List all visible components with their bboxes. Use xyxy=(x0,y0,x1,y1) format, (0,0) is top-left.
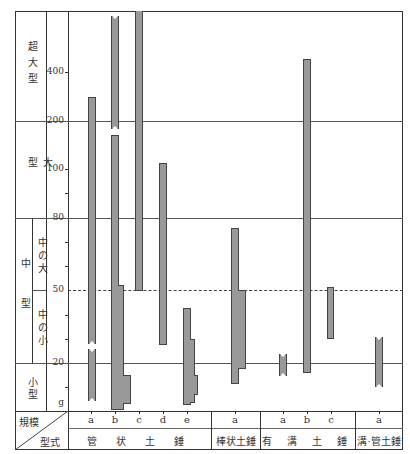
subtype-label: a xyxy=(276,414,290,425)
tick xyxy=(65,242,69,243)
tick-label-20: 20 xyxy=(44,357,64,367)
gridline-200 xyxy=(15,121,403,122)
subtype-label: a xyxy=(228,414,242,425)
chart-frame xyxy=(15,11,403,450)
bar-kanjou-b-step2 xyxy=(123,375,131,404)
gridline-80 xyxy=(15,218,403,219)
x-axis-line xyxy=(15,411,403,412)
y-axis-line xyxy=(68,11,69,450)
subtype-label: e xyxy=(180,414,194,425)
label-super-large: 超大型 xyxy=(24,30,39,100)
bar-kanjou-d xyxy=(159,163,167,345)
gridline-20 xyxy=(15,363,403,364)
bar-kanjou-b-upper xyxy=(111,16,119,129)
tick xyxy=(65,315,69,316)
type-header: 型式 xyxy=(40,434,60,449)
tick xyxy=(65,339,69,340)
bar-yuukou-a xyxy=(279,354,287,376)
group-label-kanjou: 管 状 土 錘 xyxy=(68,433,211,448)
label-medium: 中型 xyxy=(17,258,32,338)
tick-label-100: 100 xyxy=(44,163,64,173)
group-label-yuukou: 有 溝 土 錘 xyxy=(260,433,355,448)
subtype-label: d xyxy=(156,414,170,425)
tick xyxy=(65,387,69,388)
bar-boujou-a-step xyxy=(238,290,246,369)
subtype-label: a xyxy=(84,414,98,425)
bar-kanjou-e-step2 xyxy=(194,375,198,395)
bar-kokan-a xyxy=(375,337,383,387)
tick-label-50: 50 xyxy=(44,284,64,294)
subtype-label: c xyxy=(324,414,338,425)
label-large: 大型 xyxy=(24,143,54,203)
subtype-label: b xyxy=(300,414,314,425)
label-medium-small: 中の小 xyxy=(34,298,49,358)
bar-yuukou-b xyxy=(303,59,311,373)
label-small: 小型 xyxy=(24,374,39,404)
tick xyxy=(65,266,69,267)
tick-label-80: 80 xyxy=(44,212,64,222)
bar-kanjou-a-upper xyxy=(88,97,96,344)
label-medium-large: 中の大 xyxy=(34,226,49,286)
bar-kanjou-a-lower xyxy=(88,349,96,401)
tick xyxy=(65,72,69,73)
subtype-label: b xyxy=(108,414,122,425)
subtype-row-divider xyxy=(68,428,403,429)
tick-label-200: 200 xyxy=(44,115,64,125)
group-label-boujou: 棒状土錘 xyxy=(211,433,260,448)
subtype-label: c xyxy=(132,414,146,425)
bar-kanjou-c xyxy=(135,11,143,291)
tick xyxy=(65,193,69,194)
y-unit-label: g xyxy=(44,397,64,407)
subtype-label: a xyxy=(372,414,386,425)
tick xyxy=(65,169,69,170)
group-label-kokan: 溝·管土錘 xyxy=(355,433,403,448)
bar-yuukou-c xyxy=(327,287,334,339)
tick-label-400: 400 xyxy=(44,66,64,76)
size-header: 規模 xyxy=(19,414,39,429)
